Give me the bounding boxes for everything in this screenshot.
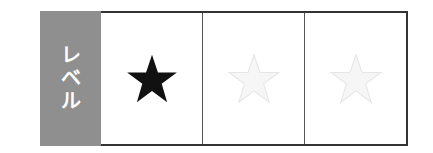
star-empty-icon (227, 52, 281, 106)
star-cells (101, 11, 408, 146)
level-label-char: レ (61, 44, 81, 67)
star-cell-3 (304, 13, 406, 144)
star-cell-2 (202, 13, 304, 144)
level-rating-table: レ ベ ル (40, 11, 408, 146)
star-cell-1 (101, 13, 202, 144)
level-label-char: ベ (61, 67, 81, 90)
star-empty-icon (329, 52, 383, 106)
star-filled-icon (125, 52, 179, 106)
level-label-char: ル (61, 90, 81, 113)
level-label: レ ベ ル (40, 11, 101, 146)
